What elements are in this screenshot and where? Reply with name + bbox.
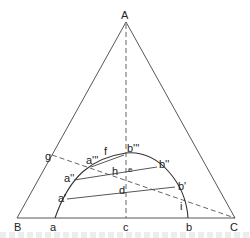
cropped-caption — [0, 232, 250, 238]
edge-ab — [17, 22, 126, 218]
label-h: h — [112, 165, 118, 177]
label-a-vertex: A — [121, 9, 129, 21]
label-a2: a'' — [64, 172, 74, 184]
label-a1: a' — [58, 192, 66, 204]
label-b3: b''' — [127, 142, 139, 154]
label-i: i — [180, 200, 182, 212]
label-d: d — [119, 184, 125, 196]
label-e: e — [128, 165, 133, 174]
label-f: f — [104, 145, 108, 157]
label-b1: b' — [178, 180, 186, 192]
label-g: g — [45, 150, 51, 162]
label-b2: b'' — [159, 158, 169, 170]
label-a3: a''' — [86, 154, 98, 166]
dashed-line-g-c — [52, 155, 235, 218]
ternary-diagram: A B C a c b a' b' a'' b'' a''' b''' d e … — [0, 0, 250, 238]
